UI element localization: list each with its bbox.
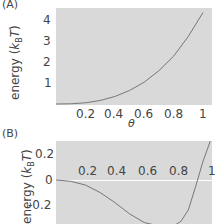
panel-a-curve (56, 13, 203, 105)
curves (0, 0, 220, 224)
panel-b-curve (56, 141, 210, 224)
